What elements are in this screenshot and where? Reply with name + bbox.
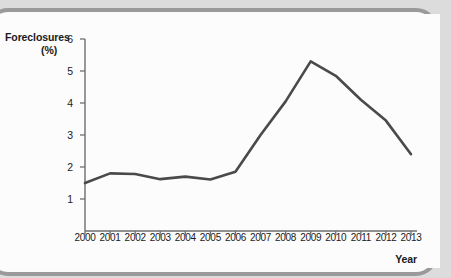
plot-area [0,0,451,278]
screenshot-root: Foreclosures (%) Year 123456 20002001200… [0,0,451,278]
axis-lines [85,39,417,231]
x-axis-ticks [85,231,411,236]
y-axis-ticks [80,39,85,199]
foreclosures-data-line [85,61,411,183]
line-chart-figure: Foreclosures (%) Year 123456 20002001200… [0,0,451,278]
